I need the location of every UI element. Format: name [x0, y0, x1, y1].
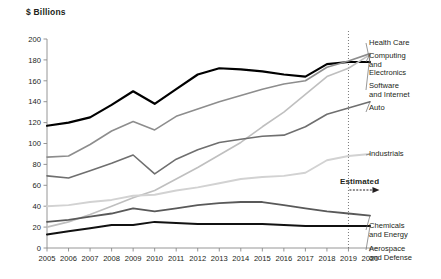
- series-label-auto: Auto: [369, 104, 385, 113]
- y-tick-label: 80: [33, 160, 41, 169]
- y-tick-label: 60: [33, 181, 41, 190]
- y-tick-label: 140: [28, 97, 41, 106]
- x-tick-label: 2005: [39, 254, 56, 263]
- x-tick-label: 2010: [146, 254, 163, 263]
- series-label-computing-and-electronics: Computing and Electronics: [369, 52, 406, 78]
- series-label-chemicals-and-energy: Chemicals and Energy: [369, 222, 408, 239]
- series-label-health-care: Health Care: [369, 39, 410, 48]
- y-tick-label: 20: [33, 223, 41, 232]
- y-tick-label: 120: [28, 118, 41, 127]
- x-tick-label: 2009: [125, 254, 142, 263]
- y-tick-label: 200: [28, 35, 41, 44]
- x-tick-label: 2011: [168, 254, 184, 263]
- y-tick-label: 100: [28, 139, 41, 148]
- y-tick-label: 0: [37, 244, 41, 253]
- y-tick-label: 160: [28, 77, 41, 86]
- y-tick-label: 40: [33, 202, 41, 211]
- x-tick-label: 2015: [254, 254, 271, 263]
- x-tick-label: 2017: [297, 254, 314, 263]
- x-tick-label: 2013: [211, 254, 228, 263]
- y-tick-label: 180: [28, 56, 41, 65]
- estimated-annotation-label: Estimated: [340, 177, 379, 186]
- x-tick-label: 2012: [189, 254, 206, 263]
- x-tick-label: 2007: [82, 254, 99, 263]
- series-label-aerospace-and-defense: Aerospace and Defense: [369, 245, 412, 262]
- series-line-computing-and-electronics: [47, 54, 370, 157]
- series-label-software-and-internet: Software and Internet: [369, 82, 410, 99]
- x-tick-label: 2018: [318, 254, 335, 263]
- x-tick-label: 2016: [275, 254, 292, 263]
- x-tick-label: 2006: [60, 254, 77, 263]
- x-tick-label: 2019: [340, 254, 357, 263]
- series-line-aerospace-and-defense: [47, 222, 370, 235]
- x-tick-label: 2014: [232, 254, 249, 263]
- estimated-arrow-head: [372, 187, 379, 193]
- line-chart: $ Billions 02040608010012014016018020020…: [0, 0, 441, 279]
- series-label-industrials: Industrials: [369, 150, 404, 159]
- x-tick-label: 2008: [103, 254, 120, 263]
